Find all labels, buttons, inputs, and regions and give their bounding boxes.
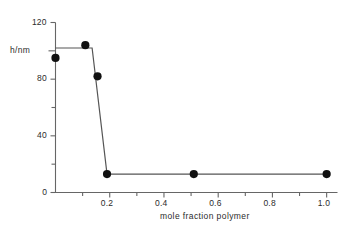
axis-spines — [56, 23, 338, 193]
x-tick-label: 0.4 — [155, 198, 167, 208]
chart-canvas — [0, 0, 359, 232]
data-point-marker — [93, 72, 101, 80]
y-axis-label: h/nm — [10, 45, 30, 55]
y-tick-label: 120 — [32, 17, 47, 27]
series-polyline — [56, 48, 327, 174]
data-series-line — [56, 48, 327, 174]
x-tick-label: 0.6 — [209, 198, 221, 208]
x-tick-label: 0.2 — [101, 198, 113, 208]
data-point-marker — [323, 170, 331, 178]
chart-figure: h/nm mole fraction polymer 0.20.40.60.81… — [0, 0, 359, 232]
x-tick-label: 0.8 — [263, 198, 275, 208]
data-point-marker — [81, 41, 89, 49]
data-point-marker — [51, 54, 59, 62]
data-point-marker — [103, 170, 111, 178]
y-tick-label: 40 — [37, 130, 47, 140]
y-tick-label: 80 — [37, 73, 47, 83]
y-tick-label: 0 — [42, 187, 47, 197]
data-point-marker — [190, 170, 198, 178]
x-tick-label: 1.0 — [318, 198, 330, 208]
x-axis-label: mole fraction polymer — [160, 211, 250, 221]
